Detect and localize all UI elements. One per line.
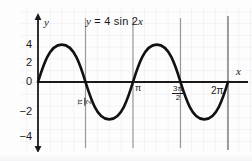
x-tick-label-pi-over-2: π 2 xyxy=(76,88,93,106)
page-edge-artifact xyxy=(0,112,7,146)
grid-lines xyxy=(20,8,252,153)
y-tick-label-neg4: −4 xyxy=(10,131,32,142)
x-tick-label-2pi: 2π xyxy=(211,86,223,96)
x-axis-label: x xyxy=(236,66,241,77)
equation-label: y = 4 sin 2x xyxy=(86,16,143,27)
equation-rhs: x xyxy=(138,15,143,27)
y-tick-label-neg2: −2 xyxy=(10,106,32,117)
figure-sine-graph: y = 4 sin 2x y x 4 2 0 −2 −4 π 2 π 3π 2 … xyxy=(0,0,252,161)
y-tick-label-4: 4 xyxy=(12,39,32,50)
y-tick-label-2: 2 xyxy=(12,57,32,68)
x-tick-label-pi: π xyxy=(135,84,141,93)
fraction-3pi-over-2: 3π 2 xyxy=(172,85,184,102)
x-tick-label-3pi-over-2: 3π 2 xyxy=(170,85,186,102)
y-axis-label: y xyxy=(44,17,49,28)
fraction-pi-over-2: π 2 xyxy=(76,98,93,106)
y-tick-label-0: 0 xyxy=(12,76,32,87)
bottom-fade xyxy=(0,152,252,161)
equation-mid: = 4 sin 2 xyxy=(91,15,138,27)
